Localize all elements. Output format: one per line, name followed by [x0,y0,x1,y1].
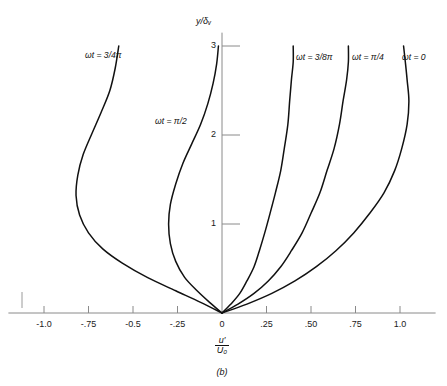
x-tick-label-1: -.75 [69,319,109,329]
y-tick-label-2: 3 [198,40,216,50]
y-tick-label-1: 2 [198,129,216,139]
curve-label-wt-pi-2: ωt = π/2 [155,116,187,126]
figure-caption: (b) [202,367,242,377]
x-tick-label-6: .50 [291,319,331,329]
curve-label-wt-3-8-pi: ωt = 3/8π [296,52,333,62]
x-tick-label-7: .75 [336,319,376,329]
x-axis-title: u′ U₀ [202,336,242,356]
y-tick-label-0: 1 [198,218,216,228]
x-tick-label-4: 0 [202,319,242,329]
x-tick-label-2: -0.5 [113,319,153,329]
x-tick-label-5: .25 [247,319,287,329]
curve-label-wt-pi-4: ωt = π/4 [352,52,384,62]
y-axis-title: y/δᵥ [196,16,211,26]
x-tick-label-3: -.25 [158,319,198,329]
x-axis-title-denominator: U₀ [215,346,229,355]
x-tick-label-8: 1.0 [380,319,420,329]
curve-label-wt-3-4-pi: ωt = 3/4π [85,50,122,60]
x-tick-label-0: -1.0 [24,319,64,329]
curve-label-wt-0: ωt = 0 [402,52,426,62]
